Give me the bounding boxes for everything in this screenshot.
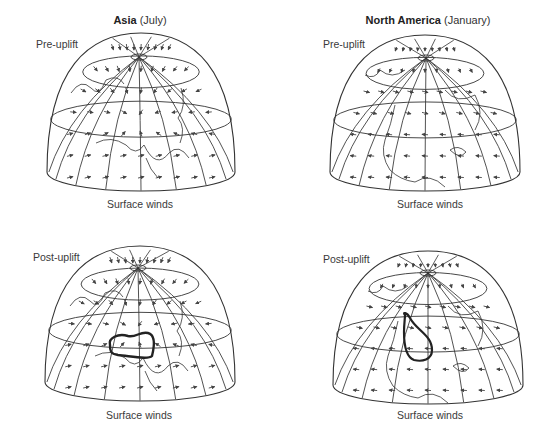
wind-arrow [119, 365, 125, 367]
wind-arrow [416, 284, 417, 288]
wind-arrow [422, 112, 428, 114]
wind-arrow [439, 112, 445, 114]
wind-arrow [101, 387, 107, 389]
wind-arrow [168, 257, 171, 262]
wind-arrow [65, 365, 71, 367]
wind-arrow [196, 89, 201, 91]
wind-arrow [353, 348, 359, 349]
wind-arrow [68, 323, 74, 324]
wind-arrow [141, 66, 142, 72]
wind-arrow [65, 344, 71, 345]
wind-arrow [368, 177, 374, 178]
wind-arrow [206, 112, 212, 113]
wind-arrow [182, 89, 187, 92]
wind-arrow [356, 327, 362, 329]
wind-arrow [148, 44, 149, 50]
wind-arrow [117, 66, 119, 72]
wind-arrow [386, 156, 392, 157]
wind-arrow [209, 387, 215, 389]
wind-arrow [104, 111, 110, 112]
wind-arrow [443, 390, 449, 391]
wind-arrow [120, 177, 126, 179]
globe-asia-pre [47, 33, 235, 191]
wind-arrow [440, 306, 446, 308]
wind-arrow [168, 44, 171, 49]
wind-arrow [461, 348, 467, 349]
wind-arrow [458, 134, 464, 135]
wind-arrow [167, 301, 172, 305]
wind-arrow [209, 365, 215, 367]
wind-arrow [86, 323, 92, 324]
wind-arrow [386, 177, 392, 178]
wind-arrow [425, 369, 431, 370]
wind-arrow [189, 112, 195, 113]
wind-arrow [121, 132, 125, 137]
wind-arrow [156, 155, 162, 157]
wind-arrow [173, 344, 179, 346]
wind-arrow [191, 155, 197, 157]
wind-arrow [120, 322, 125, 325]
wind-arrow [102, 177, 108, 179]
wind-arrow [440, 134, 446, 135]
wind-arrow [119, 387, 125, 389]
wind-arrow [350, 156, 356, 157]
wind-arrow [422, 91, 428, 93]
globe-asia-post [45, 246, 235, 401]
wind-arrow [462, 284, 464, 288]
wind-arrow [479, 348, 485, 349]
wind-arrow [161, 257, 163, 263]
wind-arrow [116, 278, 118, 284]
wind-arrow [410, 306, 416, 308]
wind-arrow [153, 300, 156, 305]
wind-arrow [162, 66, 165, 71]
wind-arrow [129, 66, 130, 72]
wind-arrow [119, 44, 120, 50]
wind-arrow [408, 327, 414, 329]
wind-arrow [92, 279, 96, 284]
wind-arrow [85, 177, 91, 179]
wind-arrow [390, 68, 392, 72]
wind-arrow [67, 177, 73, 179]
globe-diagrams [0, 0, 553, 440]
wind-arrow [103, 133, 108, 136]
wind-arrow [368, 156, 374, 157]
wind-arrow [398, 263, 399, 267]
wind-arrow [209, 177, 215, 179]
wind-arrow [168, 88, 173, 92]
wind-arrow [67, 155, 73, 157]
wind-arrow [476, 177, 482, 178]
wind-arrow [101, 344, 106, 347]
wind-arrow [120, 343, 124, 347]
wind-arrow [484, 306, 490, 308]
wind-arrow [112, 44, 114, 50]
wind-arrow [110, 88, 114, 93]
wind-arrow [494, 177, 500, 178]
wind-arrow [497, 390, 503, 391]
wind-arrow [381, 306, 387, 308]
wind-arrow [410, 47, 411, 51]
wind-arrow [473, 284, 475, 288]
wind-arrow [83, 365, 89, 367]
wind-arrow [81, 89, 86, 92]
wind-arrow [443, 348, 449, 349]
wind-arrow [494, 156, 500, 157]
wind-arrow [70, 112, 76, 113]
wind-arrow [440, 156, 446, 157]
wind-arrow [184, 67, 188, 71]
wind-arrow [209, 155, 215, 157]
wind-arrow [172, 112, 178, 113]
wind-arrow [391, 327, 397, 329]
wind-arrow [371, 369, 377, 370]
wind-arrow [350, 134, 356, 135]
wind-arrow [448, 68, 449, 72]
wind-arrow [184, 279, 188, 283]
wind-arrow [480, 91, 486, 93]
wind-arrow [378, 91, 384, 93]
globe-na-pre [330, 35, 520, 191]
wind-arrow [392, 284, 394, 288]
wind-arrow [446, 47, 447, 51]
wind-arrow [396, 306, 402, 308]
wind-arrow [404, 156, 410, 157]
wind-arrow [121, 111, 126, 114]
wind-arrow [422, 177, 428, 178]
